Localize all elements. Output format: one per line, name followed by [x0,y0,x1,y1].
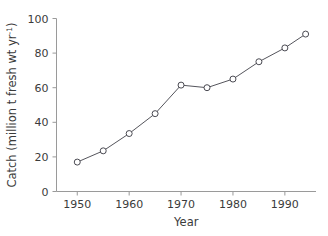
line-chart: 02040608010019501960197019801990 YearCat… [0,0,328,236]
x-tick-label: 1960 [115,198,143,211]
data-markers [74,31,308,165]
y-tick-label: 60 [35,82,49,95]
data-point-marker [74,159,80,165]
y-axis-title: Catch (million t fresh wt yr-1) [5,22,19,187]
y-tick-label: 20 [35,151,49,164]
data-point-marker [230,76,236,82]
tick-labels: 02040608010019501960197019801990 [28,13,299,211]
chart-container: 02040608010019501960197019801990 YearCat… [0,0,328,236]
data-point-marker [303,31,309,37]
y-tick-label: 40 [35,116,49,129]
series-line [77,34,305,162]
data-point-marker [126,131,132,137]
x-tick-label: 1990 [271,198,299,211]
data-point-marker [152,111,158,117]
x-axis-title: Year [173,215,199,229]
x-tick-label: 1980 [219,198,247,211]
data-point-marker [204,85,210,91]
x-tick-label: 1970 [167,198,195,211]
data-series [77,34,305,162]
y-tick-label: 0 [42,186,49,199]
data-point-marker [100,148,106,154]
data-point-marker [282,45,288,51]
y-tick-label: 80 [35,47,49,60]
y-tick-label: 100 [28,13,49,26]
axis-spine [57,19,317,192]
data-point-marker [178,82,184,88]
data-point-marker [256,59,262,65]
x-tick-label: 1950 [63,198,91,211]
axes [57,19,317,192]
tick-marks [53,19,285,196]
